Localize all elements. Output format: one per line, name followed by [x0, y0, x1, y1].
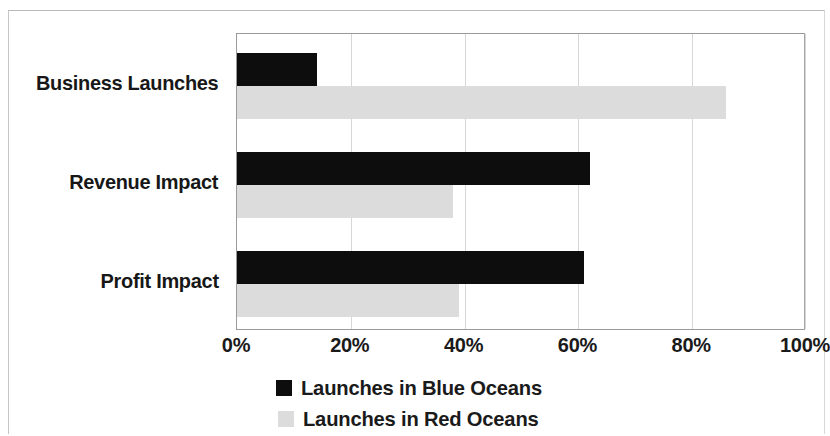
legend-item: Launches in Blue Oceans — [0, 372, 827, 403]
x-tick-label: 80% — [672, 334, 711, 357]
legend-swatch-blue-oceans — [276, 380, 292, 396]
x-tick-label: 20% — [330, 334, 369, 357]
chart-legend: Launches in Blue OceansLaunches in Red O… — [0, 372, 827, 434]
x-tick-label: 0% — [222, 334, 250, 357]
category-label: Revenue Impact — [69, 170, 224, 194]
x-axis-tick-labels: 0%20%40%60%80%100% — [236, 334, 805, 364]
category-axis-labels: Business LaunchesRevenue ImpactProfit Im… — [0, 33, 827, 330]
category-label-row: Profit Impact — [0, 231, 224, 330]
legend-swatch-red-oceans — [278, 411, 294, 427]
legend-item: Launches in Red Oceans — [0, 403, 827, 434]
x-tick-label: 60% — [558, 334, 597, 357]
x-tick-label: 100% — [780, 334, 830, 357]
legend-label: Launches in Red Oceans — [303, 407, 539, 431]
category-label-row: Revenue Impact — [0, 132, 224, 231]
legend-label: Launches in Blue Oceans — [301, 376, 542, 400]
category-label: Business Launches — [36, 71, 224, 95]
category-label-row: Business Launches — [0, 33, 224, 132]
category-label: Profit Impact — [100, 269, 224, 293]
x-tick-label: 40% — [444, 334, 483, 357]
